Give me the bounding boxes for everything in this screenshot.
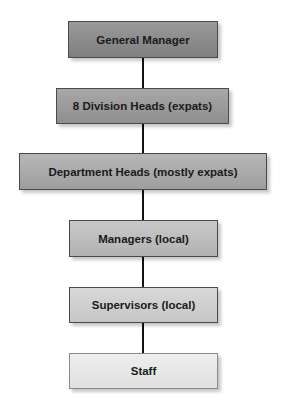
box-division-heads: 8 Division Heads (expats) bbox=[56, 88, 229, 124]
box-label: General Manager bbox=[96, 34, 189, 46]
box-general-manager: General Manager bbox=[68, 21, 218, 58]
box-staff: Staff bbox=[69, 353, 218, 389]
box-label: Managers (local) bbox=[98, 233, 189, 245]
connector-line bbox=[142, 257, 144, 287]
connector-line bbox=[142, 124, 144, 153]
box-label: Department Heads (mostly expats) bbox=[48, 166, 237, 178]
connector-line bbox=[142, 58, 144, 88]
box-label: Supervisors (local) bbox=[92, 299, 196, 311]
box-label: Staff bbox=[131, 365, 157, 377]
box-supervisors: Supervisors (local) bbox=[69, 287, 218, 323]
connector-line bbox=[142, 323, 144, 353]
box-managers: Managers (local) bbox=[69, 220, 218, 257]
box-label: 8 Division Heads (expats) bbox=[73, 100, 212, 112]
box-department-heads: Department Heads (mostly expats) bbox=[19, 153, 267, 190]
connector-line bbox=[142, 190, 144, 220]
